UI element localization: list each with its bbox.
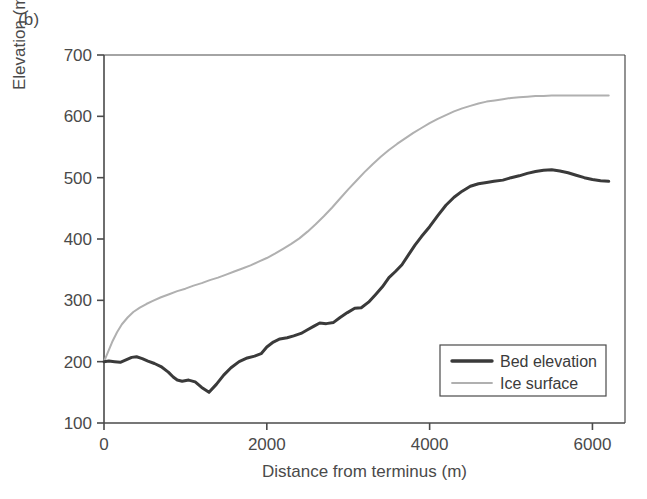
chart-plot-area: 1002003004005006007000200040006000Bed el…: [0, 0, 647, 499]
y-tick-label: 300: [64, 291, 92, 310]
y-tick-label: 500: [64, 169, 92, 188]
y-tick-label: 100: [64, 414, 92, 433]
x-tick-label: 6000: [574, 435, 612, 454]
y-tick-label: 600: [64, 107, 92, 126]
y-axis-label: Elevation (m): [10, 0, 30, 160]
legend-label-2: Ice surface: [500, 375, 578, 392]
y-tick-label: 400: [64, 230, 92, 249]
x-tick-label: 0: [99, 435, 108, 454]
series-line-ice-surface: [104, 95, 609, 361]
x-axis-label: Distance from terminus (m): [104, 462, 625, 482]
x-tick-label: 2000: [248, 435, 286, 454]
y-tick-label: 700: [64, 46, 92, 65]
legend-label-1: Bed elevation: [500, 353, 597, 370]
figure-panel-b: (b) Elevation (m) 1002003004005006007000…: [0, 0, 647, 499]
y-tick-label: 200: [64, 353, 92, 372]
x-tick-label: 4000: [411, 435, 449, 454]
